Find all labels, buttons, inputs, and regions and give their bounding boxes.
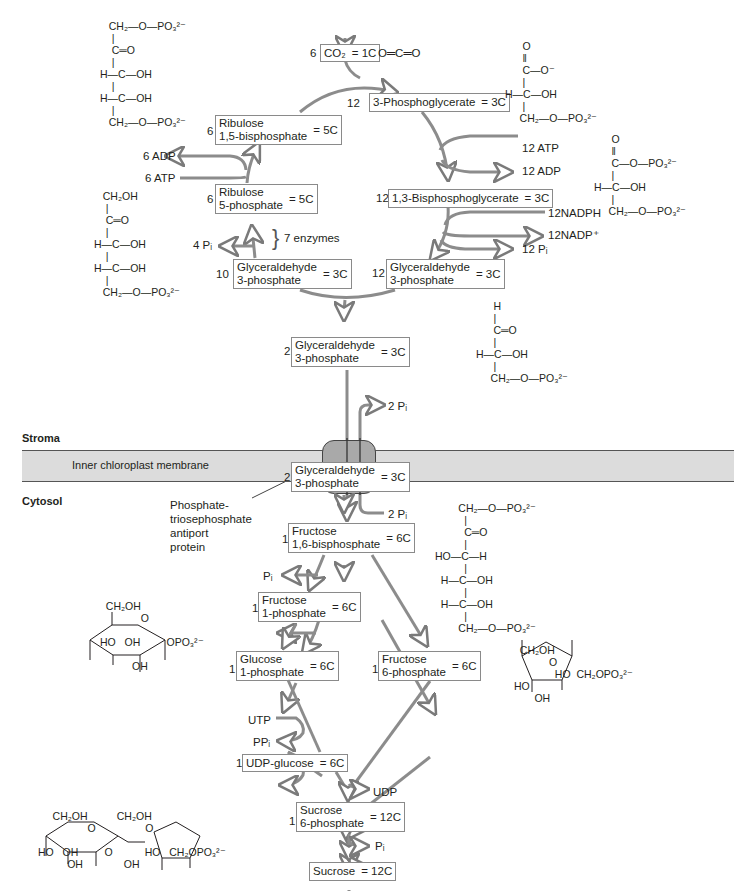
- sucrose-structure-labels: CH₂OH CH₂OH O O HO OH O HO CH₂OPO₃²⁻ OH …: [38, 810, 226, 870]
- sucrose-rings: [0, 0, 734, 891]
